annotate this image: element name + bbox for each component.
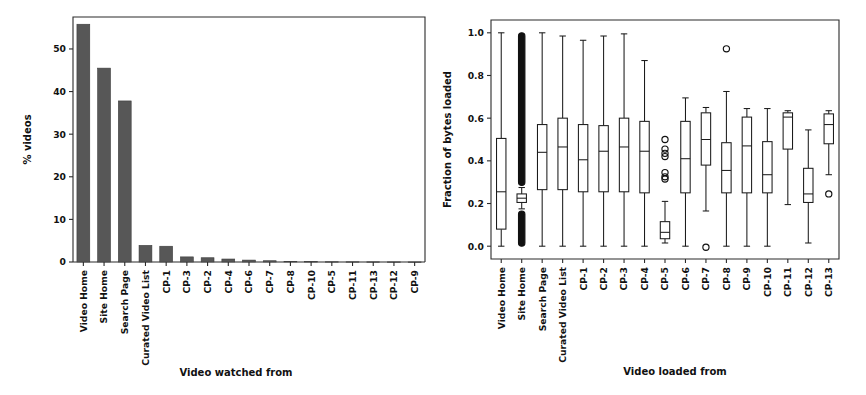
x-tick-label: CP-11 xyxy=(347,270,358,300)
box xyxy=(619,118,628,192)
flier xyxy=(826,191,832,197)
bar xyxy=(201,258,214,262)
x-tick-label: CP-13 xyxy=(368,270,379,300)
box-group xyxy=(722,46,731,246)
box xyxy=(537,125,546,190)
x-axis-title: Video watched from xyxy=(179,367,292,378)
x-tick-label: Site Home xyxy=(98,270,109,323)
x-tick-label: Search Page xyxy=(119,270,130,334)
x-tick-label: CP-13 xyxy=(823,267,834,297)
bar-chart-svg: 01020304050% videosVideo HomeSite HomeSe… xyxy=(0,0,433,395)
x-axis-title: Video loaded from xyxy=(623,366,726,377)
x-tick-label: CP-7 xyxy=(264,270,275,294)
box-group xyxy=(640,61,649,247)
x-tick-label: CP-10 xyxy=(306,270,317,300)
box-group xyxy=(660,136,669,243)
box xyxy=(558,118,567,189)
bar-chart-panel: 01020304050% videosVideo HomeSite HomeSe… xyxy=(0,0,433,395)
box xyxy=(824,114,833,144)
box-group xyxy=(497,33,506,246)
x-tick-label: CP-4 xyxy=(223,270,234,294)
box-group xyxy=(783,111,792,205)
x-tick-label: CP-8 xyxy=(285,270,296,294)
flier xyxy=(662,136,668,142)
bar xyxy=(222,259,235,262)
x-tick-label: CP-8 xyxy=(721,267,732,291)
box xyxy=(660,222,669,239)
flier xyxy=(703,244,709,250)
x-tick-label: Search Page xyxy=(537,267,548,331)
x-tick-label: Video Home xyxy=(78,270,89,332)
y-tick-label: 0.0 xyxy=(468,241,484,252)
x-tick-label: CP-10 xyxy=(762,267,773,297)
y-tick-label: 0 xyxy=(60,256,66,267)
box-group xyxy=(619,34,628,246)
box-group xyxy=(763,109,772,247)
bar xyxy=(77,24,90,262)
y-axis-title: Fraction of bytes loaded xyxy=(442,71,453,208)
flier xyxy=(723,46,729,52)
box xyxy=(742,117,751,193)
y-tick-label: 10 xyxy=(53,214,66,225)
y-tick-label: 0.6 xyxy=(468,113,484,124)
bar xyxy=(263,261,276,262)
y-tick-label: 0.2 xyxy=(468,198,484,209)
box-group xyxy=(517,33,526,246)
y-tick-label: 0.4 xyxy=(468,155,484,166)
x-tick-label: CP-2 xyxy=(202,270,213,294)
box-group xyxy=(824,111,833,197)
x-tick-label: CP-9 xyxy=(409,270,420,294)
x-tick-label: CP-9 xyxy=(741,267,752,291)
box xyxy=(763,142,772,193)
box xyxy=(783,113,792,149)
x-tick-label: CP-1 xyxy=(578,267,589,291)
x-tick-label: Curated Video List xyxy=(557,266,568,362)
x-tick-label: CP-6 xyxy=(243,270,254,294)
bar xyxy=(284,261,297,262)
x-tick-label: CP-1 xyxy=(161,270,172,294)
x-tick-label: Video Home xyxy=(496,267,507,329)
y-tick-label: 0.8 xyxy=(468,70,484,81)
box xyxy=(599,126,608,192)
bar xyxy=(243,260,256,262)
box-group xyxy=(681,98,690,246)
x-tick-label: CP-2 xyxy=(598,267,609,291)
y-tick-label: 50 xyxy=(53,43,66,54)
x-tick-label: CP-11 xyxy=(782,267,793,297)
boxplot-panel: 0.00.20.40.60.81.0Fraction of bytes load… xyxy=(433,0,866,395)
x-tick-label: CP-5 xyxy=(326,270,337,294)
box-group xyxy=(537,33,546,246)
x-tick-label: CP-12 xyxy=(388,270,399,300)
bar xyxy=(118,101,131,262)
bar xyxy=(160,246,173,262)
box xyxy=(681,121,690,192)
box-group xyxy=(599,36,608,246)
x-tick-label: CP-5 xyxy=(659,267,670,291)
box xyxy=(701,113,710,165)
figure-root: 01020304050% videosVideo HomeSite HomeSe… xyxy=(0,0,866,395)
box xyxy=(497,138,506,229)
box-group xyxy=(742,109,751,247)
box-group xyxy=(558,36,567,246)
y-tick-label: 30 xyxy=(53,129,66,140)
y-tick-label: 1.0 xyxy=(468,27,484,38)
box-group xyxy=(578,40,587,246)
y-tick-label: 40 xyxy=(53,86,66,97)
x-tick-label: CP-12 xyxy=(803,267,814,297)
box xyxy=(578,125,587,192)
y-tick-label: 20 xyxy=(53,171,66,182)
x-tick-label: CP-3 xyxy=(618,267,629,291)
boxplot-svg: 0.00.20.40.60.81.0Fraction of bytes load… xyxy=(433,0,866,395)
x-tick-label: Site Home xyxy=(516,267,527,320)
flier-dense xyxy=(519,33,525,186)
y-axis-title: % videos xyxy=(22,114,33,164)
bar xyxy=(180,257,193,262)
x-tick-label: CP-6 xyxy=(680,267,691,291)
x-tick-label: CP-7 xyxy=(700,267,711,291)
x-tick-label: CP-3 xyxy=(181,270,192,294)
box xyxy=(804,168,813,202)
box-group xyxy=(804,130,813,243)
box-group xyxy=(701,107,710,250)
x-tick-label: CP-4 xyxy=(639,267,650,291)
box xyxy=(722,143,731,193)
